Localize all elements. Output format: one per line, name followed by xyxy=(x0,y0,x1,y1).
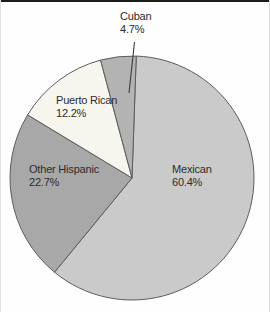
cuban-label: Cuban 4.7% xyxy=(120,10,151,36)
pie-chart xyxy=(1,0,270,312)
mexican-label-name: Mexican xyxy=(172,163,212,176)
other-hispanic-label-name: Other Hispanic xyxy=(29,163,99,176)
other-hispanic-label-pct: 22.7% xyxy=(29,176,99,189)
puerto-rican-label-pct: 12.2% xyxy=(56,107,117,120)
figure: Cuban 4.7% Puerto Rican 12.2% Other Hisp… xyxy=(0,0,270,312)
cuban-label-pct: 4.7% xyxy=(120,23,151,36)
mexican-label-pct: 60.4% xyxy=(172,176,212,189)
puerto-rican-label: Puerto Rican 12.2% xyxy=(56,94,117,120)
cuban-label-name: Cuban xyxy=(120,10,151,23)
puerto-rican-label-name: Puerto Rican xyxy=(56,94,117,107)
other-hispanic-label: Other Hispanic 22.7% xyxy=(29,163,99,189)
mexican-label: Mexican 60.4% xyxy=(172,163,212,189)
